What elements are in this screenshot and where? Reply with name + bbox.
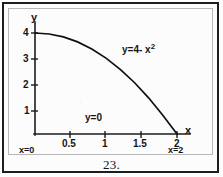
x-tick-label-1point5: 1.5 xyxy=(133,139,147,149)
parabola-curve xyxy=(35,33,177,134)
curve-equation-label: y=4- x2 xyxy=(122,45,155,55)
curve-equation-base: y=4- x xyxy=(122,44,151,55)
region-label-y-equals-zero: y=0 xyxy=(85,113,102,123)
x-tick-label-1: 1 xyxy=(102,139,108,149)
bound-label-x-equals-two: x=2 xyxy=(168,146,183,155)
y-tick-label-4: 4 xyxy=(23,28,29,38)
figure-caption: 23. xyxy=(0,157,223,173)
x-tick-label-0point5: 0.5 xyxy=(62,139,76,149)
y-axis-name: y xyxy=(31,12,37,23)
y-tick-label-1: 1 xyxy=(24,106,30,116)
figure-container: y x 4 3 2 1 0.5 1 1.5 2 y=4- x2 y=0 x=0 … xyxy=(0,0,223,177)
x-axis-name: x xyxy=(185,125,191,136)
bound-label-x-equals-zero: x=0 xyxy=(19,146,34,155)
y-tick-label-3: 3 xyxy=(23,54,29,64)
curve-equation-exponent: 2 xyxy=(151,42,155,51)
y-tick-label-2: 2 xyxy=(23,80,29,90)
